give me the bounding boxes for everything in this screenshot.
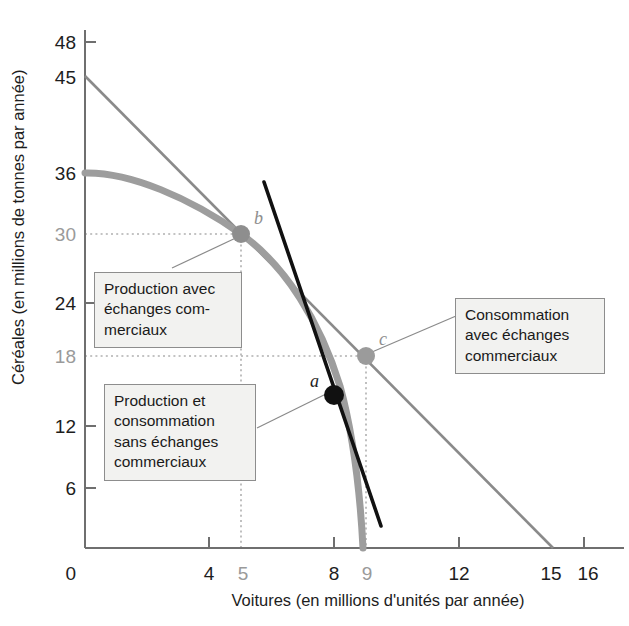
ppf-trade-figure: b a c 48 45 36 30 24 18 12 6 0 4 5 8 9 1… [0,0,629,626]
point-label-b: b [254,208,263,228]
x-tick-label-8: 8 [329,563,340,584]
x-axis-title: Voitures (en millions d'unités par année… [232,591,525,609]
y-tick-label-45: 45 [55,67,76,88]
data-points [232,225,375,405]
callout-consumption-with-trade: Consommation avec échanges commerciaux [455,298,605,374]
x-tick-label-12: 12 [448,563,469,584]
leader-line-b [172,236,240,268]
callout-production-consumption-without-trade: Production et consommation sans échanges… [104,384,256,481]
point-label-c: c [379,329,387,349]
callout-production-with-trade: Production avec échanges com- merciaux [94,272,242,348]
y-tick-label-36: 36 [55,163,76,184]
x-tick-label-4: 4 [204,563,215,584]
data-point-a[interactable] [324,385,344,405]
y-tick-label-30: 30 [55,224,76,245]
y-axis-ticks [85,42,96,488]
leader-line-a [257,392,330,428]
x-axis-ticks [209,537,584,548]
y-tick-label-24: 24 [55,293,77,314]
x-tick-label-5: 5 [238,563,249,584]
point-label-a: a [310,371,319,391]
y-tick-label-18: 18 [55,346,76,367]
y-tick-label-6: 6 [65,478,76,499]
x-tick-label-15: 15 [540,563,561,584]
y-tick-label-48: 48 [55,32,76,53]
y-tick-label-12: 12 [55,416,76,437]
x-tick-label-9: 9 [362,563,373,584]
x-tick-label-16: 16 [577,563,598,584]
y-tick-label-0: 0 [65,563,76,584]
y-axis-title: Céréales (en millions de tonnes par anné… [9,69,27,385]
data-point-b[interactable] [232,225,250,243]
data-point-c[interactable] [357,347,375,365]
ppf-curve [85,173,363,548]
